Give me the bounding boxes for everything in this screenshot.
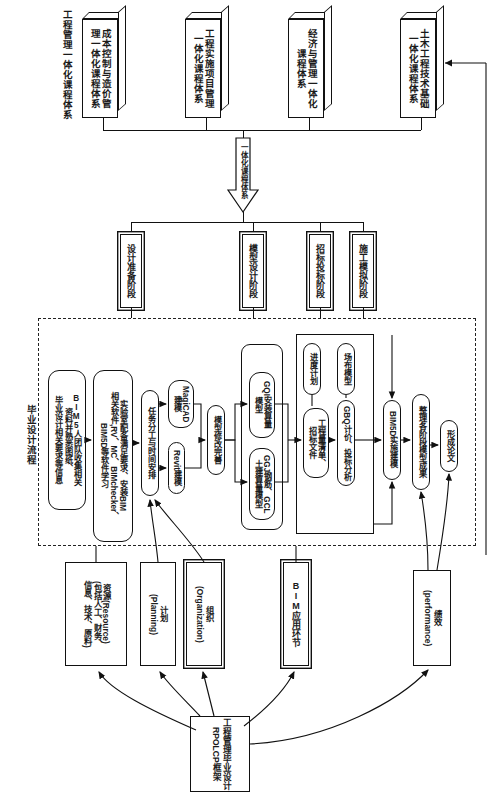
- connector-cost-down: [103, 118, 104, 130]
- node-label: 进度计划: [307, 353, 316, 385]
- cube-front-face: 经济与管理一体化 课程体系: [288, 19, 324, 118]
- node-task-schedule[interactable]: 任务分工与时间安排: [141, 390, 159, 496]
- stage-bid-down: [320, 308, 321, 318]
- connector-stage-constr: [363, 222, 364, 234]
- node-label: GQI安装算量 模型: [253, 381, 271, 428]
- integration-arrow-label-wrap: 一体化课程体系: [236, 140, 250, 202]
- connector-stage-bid: [320, 222, 321, 234]
- node-site-layout[interactable]: 场布模型: [337, 343, 355, 395]
- cube-front-face: 成本控制与造价管 理一体化课程体系: [82, 19, 118, 118]
- connector-course-bus: [103, 130, 421, 131]
- process-group-label-text: 毕业设计流程: [26, 405, 37, 465]
- framework-title-box[interactable]: 工程管理毕业设计RPOLCP框架: [190, 716, 250, 792]
- connector-economics-down: [309, 118, 310, 130]
- cube-side-face: [436, 5, 444, 111]
- stage-box-model[interactable]: 模型设计阶段: [242, 234, 264, 308]
- node-label: 场布模型: [341, 353, 350, 385]
- node-label: GGJ钢筋、GCL 土建算量模型: [253, 455, 271, 514]
- process-group-label: 毕业设计流程: [24, 375, 38, 495]
- framework-title-label: 工程管理毕业设计RPOLCP框架: [210, 717, 229, 791]
- stage-constr-down: [363, 308, 364, 318]
- stage-label: 招标投标阶段: [315, 244, 325, 298]
- cube-side-face: [118, 5, 126, 111]
- node-revit[interactable]: Revit建模: [168, 442, 185, 494]
- course-system-box-economics[interactable]: 经济与管理一体化 课程体系: [288, 12, 332, 118]
- connector-bus-to-arrow: [243, 130, 244, 138]
- cube-front-face: 工程实施项目管理 一体化课程体系: [185, 19, 221, 118]
- framework-box-bim[interactable]: BIM应用环节: [283, 562, 309, 666]
- connector-project-down: [206, 118, 207, 130]
- edge-title-to-organization: [203, 672, 214, 716]
- edge-title-to-planning: [160, 672, 200, 716]
- node-label: MagiCAD 建模: [172, 386, 190, 422]
- node-label: Revit建模: [172, 450, 181, 486]
- framework-label: 计划 (Planning): [149, 594, 168, 635]
- connector-stage-bus: [131, 222, 363, 223]
- edge-title-to-resource: [99, 672, 196, 730]
- framework-label: 组织 (Organization): [195, 586, 214, 643]
- stage-model-down: [253, 308, 254, 318]
- stage-box-bidding[interactable]: 招标投标阶段: [309, 234, 331, 308]
- connector-stage-model: [253, 222, 254, 234]
- node-magicad[interactable]: MagiCAD 建模: [168, 380, 194, 428]
- framework-box-performance[interactable]: 绩效 (performance): [413, 570, 451, 666]
- node-label: 形成论文: [444, 430, 453, 462]
- course-systems-header: 工程管理一体化课程体系: [60, 10, 74, 120]
- stage-box-construct[interactable]: 施工模拟阶段: [352, 234, 374, 308]
- connector-civil-down: [421, 118, 422, 130]
- node-team-collect[interactable]: BIM5人团队收集相关 资料并熟悉图纸、 毕业设计相关要求等信息: [48, 370, 86, 510]
- framework-label: BIM应用环节: [291, 581, 301, 647]
- cube-side-face: [324, 5, 332, 111]
- framework-box-planning[interactable]: 计划 (Planning): [140, 562, 176, 666]
- cube-side-face: [221, 5, 229, 111]
- node-ggj-gcl[interactable]: GGJ钢筋、GCL 土建算量模型: [249, 448, 275, 520]
- framework-label: 绩效 (performance): [423, 590, 442, 646]
- framework-box-organization[interactable]: 组织 (Organization): [186, 562, 222, 666]
- integration-arrow-label: 一体化课程体系: [239, 143, 247, 199]
- node-bim5d[interactable]: BIM5D实施建模: [383, 400, 401, 480]
- node-label: 实验室配备满足要求、安装BIM 相关软件,RV、MC、BIMchecker、 B…: [99, 392, 127, 520]
- node-boq[interactable]: 工程量清单、 招标文件: [303, 408, 329, 478]
- node-model-refine[interactable]: 模型修改完善: [207, 405, 225, 475]
- edge-title-to-bim: [244, 672, 294, 726]
- connector-stage-prep: [131, 222, 132, 234]
- stage-label: 施工模拟阶段: [358, 244, 368, 298]
- course-system-box-project[interactable]: 工程实施项目管理 一体化课程体系: [185, 12, 229, 118]
- connector-arrow-to-stagebus: [243, 212, 244, 222]
- diagram-canvas: 工程管理一体化课程体系 成本控制与造价管 理一体化课程体系 工程实施项目管理 一…: [0, 0, 496, 804]
- edge-title-to-performance: [250, 670, 428, 744]
- node-schedule-plan[interactable]: 进度计划: [303, 343, 321, 395]
- node-collect-results[interactable]: 整理各阶段模型成果: [412, 394, 430, 490]
- node-label: BIM5D实施建模: [387, 411, 396, 468]
- stage-label: 设计准备阶段: [126, 244, 136, 298]
- course-system-label: 成本控制与造价管 理一体化课程体系: [89, 29, 110, 109]
- stage-prep-down: [131, 308, 132, 318]
- course-system-label: 工程实施项目管理 一体化课程体系: [192, 29, 213, 109]
- framework-label: 资源(Resource) (包括人工、财务、 信息、技术、原料): [82, 581, 110, 648]
- course-system-box-cost[interactable]: 成本控制与造价管 理一体化课程体系: [82, 12, 126, 118]
- node-label: GBQ计价、投标分析: [341, 406, 350, 481]
- node-lab-software[interactable]: 实验室配备满足要求、安装BIM 相关软件,RV、MC、BIMchecker、 B…: [93, 370, 133, 542]
- stage-label: 模型设计阶段: [248, 244, 258, 298]
- node-gqi[interactable]: GQI安装算量 模型: [249, 372, 275, 438]
- feedback-arrowhead: [445, 60, 452, 67]
- course-system-box-civil-tech[interactable]: 土木工程技术基础 一体化课程体系: [400, 12, 444, 118]
- node-label: 模型修改完善: [211, 416, 220, 464]
- course-systems-header-label: 工程管理一体化课程体系: [62, 10, 73, 120]
- node-label: 工程量清单、 招标文件: [307, 419, 325, 467]
- stage-box-prep[interactable]: 设计准备阶段: [120, 234, 142, 308]
- node-label: 任务分工与时间安排: [145, 407, 154, 479]
- node-gbq[interactable]: GBQ计价、投标分析: [337, 400, 355, 486]
- node-label: BIM5人团队收集相关 资料并熟悉图纸、 毕业设计相关要求等信息: [53, 394, 81, 486]
- node-thesis[interactable]: 形成论文: [440, 420, 458, 472]
- course-system-label: 经济与管理一体化 课程体系: [295, 29, 316, 109]
- framework-box-resource[interactable]: 资源(Resource) (包括人工、财务、 信息、技术、原料): [65, 562, 127, 666]
- course-system-label: 土木工程技术基础 一体化课程体系: [407, 29, 428, 109]
- node-label: 整理各阶段模型成果: [416, 406, 425, 478]
- cube-front-face: 土木工程技术基础 一体化课程体系: [400, 19, 436, 118]
